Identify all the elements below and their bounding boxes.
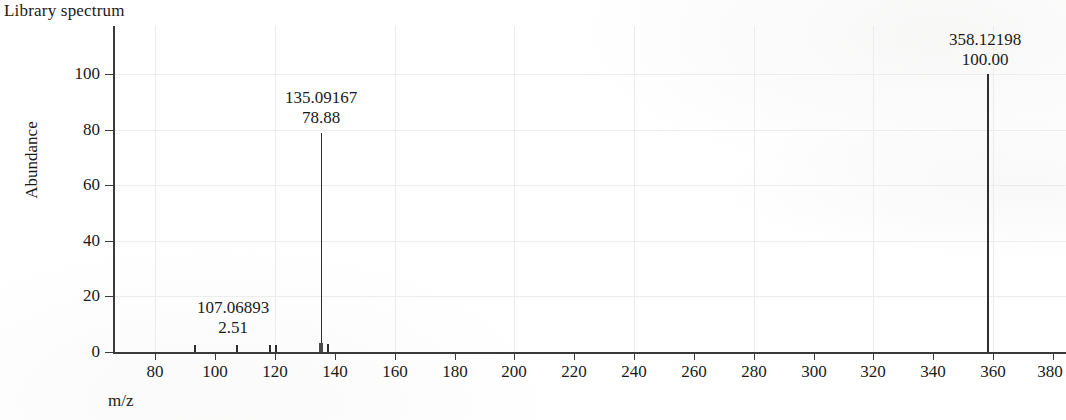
- x-tick-label-280: 280: [741, 362, 767, 382]
- gridline-h-20: [113, 296, 1066, 297]
- x-tick-mark-220: [574, 352, 575, 360]
- y-tick-mark-60: [105, 185, 114, 186]
- x-tick-label-140: 140: [322, 362, 348, 382]
- x-tick-mark-140: [335, 352, 336, 360]
- x-tick-mark-300: [814, 352, 815, 360]
- x-tick-label-160: 160: [382, 362, 408, 382]
- peak-120: [275, 345, 277, 352]
- peak-label-135-mz: 135.09167: [285, 88, 357, 107]
- y-tick-mark-40: [105, 241, 114, 242]
- x-tick-label-240: 240: [621, 362, 647, 382]
- peak-135-base: [319, 343, 323, 352]
- gridline-v-320: [873, 26, 874, 352]
- y-tick-label-40: 40: [52, 231, 100, 251]
- x-tick-label-220: 220: [561, 362, 587, 382]
- gridline-h-100: [113, 74, 1066, 75]
- x-tick-mark-180: [455, 352, 456, 360]
- x-tick-label-300: 300: [801, 362, 827, 382]
- y-tick-mark-100: [105, 74, 114, 75]
- mass-spectrum-plot: 100 80 60 40 20 0 Abundance 80 100 120 1…: [0, 0, 1066, 420]
- gridline-v-120: [275, 26, 276, 352]
- peak-118: [269, 345, 271, 352]
- gridline-v-200: [514, 26, 515, 352]
- x-tick-label-100: 100: [202, 362, 228, 382]
- peak-label-358: 358.12198 100.00: [949, 30, 1021, 69]
- x-tick-mark-200: [514, 352, 515, 360]
- gridline-v-160: [395, 26, 396, 352]
- x-tick-mark-260: [694, 352, 695, 360]
- x-tick-label-80: 80: [147, 362, 164, 382]
- x-tick-label-120: 120: [262, 362, 288, 382]
- x-tick-mark-380: [1053, 352, 1054, 360]
- peak-label-135: 135.09167 78.88: [285, 88, 357, 127]
- x-tick-label-200: 200: [501, 362, 527, 382]
- gridline-h-80: [113, 130, 1066, 131]
- x-tick-mark-240: [634, 352, 635, 360]
- y-tick-mark-0: [105, 352, 114, 353]
- peak-label-135-abundance: 78.88: [302, 108, 340, 127]
- x-axis-title: m/z: [108, 391, 134, 411]
- y-axis-title: Abundance: [22, 100, 42, 220]
- gridline-v-280: [754, 26, 755, 352]
- peak-label-107-abundance: 2.51: [218, 318, 248, 337]
- x-tick-mark-340: [933, 352, 934, 360]
- x-tick-mark-100: [215, 352, 216, 360]
- x-tick-label-260: 260: [681, 362, 707, 382]
- x-tick-mark-280: [754, 352, 755, 360]
- gridline-v-80: [155, 26, 156, 352]
- y-tick-mark-20: [105, 296, 114, 297]
- y-tick-mark-80: [105, 130, 114, 131]
- peak-label-107-mz: 107.06893: [197, 298, 269, 317]
- x-axis-line: [113, 352, 1066, 354]
- peak-label-358-abundance: 100.00: [962, 50, 1009, 69]
- y-tick-label-20: 20: [52, 286, 100, 306]
- x-tick-mark-80: [155, 352, 156, 360]
- x-tick-label-320: 320: [860, 362, 886, 382]
- x-tick-mark-120: [275, 352, 276, 360]
- y-tick-label-100: 100: [52, 64, 100, 84]
- y-tick-label-0: 0: [52, 342, 100, 362]
- y-tick-label-60: 60: [52, 175, 100, 195]
- x-tick-label-180: 180: [442, 362, 468, 382]
- x-tick-label-360: 360: [980, 362, 1006, 382]
- peak-label-358-mz: 358.12198: [949, 30, 1021, 49]
- peak-93: [194, 345, 196, 352]
- peak-107: [236, 345, 238, 352]
- peak-136: [327, 344, 329, 352]
- y-tick-label-80: 80: [52, 120, 100, 140]
- peak-135: [321, 133, 323, 352]
- x-tick-mark-320: [873, 352, 874, 360]
- gridline-h-60: [113, 185, 1066, 186]
- gridline-v-240: [634, 26, 635, 352]
- peak-label-107: 107.06893 2.51: [197, 298, 269, 337]
- x-tick-mark-160: [395, 352, 396, 360]
- x-tick-label-340: 340: [920, 362, 946, 382]
- x-tick-label-380: 380: [1037, 362, 1063, 382]
- gridline-h-40: [113, 241, 1066, 242]
- gridline-v-360: [993, 26, 994, 352]
- x-tick-mark-360: [993, 352, 994, 360]
- peak-358: [987, 74, 989, 352]
